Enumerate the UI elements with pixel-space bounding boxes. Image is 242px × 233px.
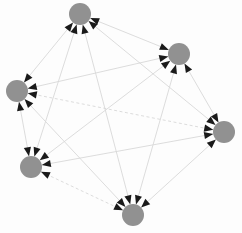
edge-arrowhead-icon	[41, 172, 51, 179]
edge-arrowhead-icon	[124, 195, 131, 205]
graph-edge	[90, 18, 169, 50]
graph-edge	[89, 21, 216, 125]
edge-arrowhead-icon	[204, 125, 214, 132]
node-layer	[6, 3, 235, 226]
edge-arrowhead-icon	[24, 147, 31, 157]
edge-arrowhead-icon	[159, 43, 169, 50]
graph-node[interactable]	[6, 80, 28, 102]
edge-arrowhead-icon	[40, 152, 49, 160]
edge-arrowhead-icon	[65, 23, 73, 32]
edge-arrowhead-icon	[42, 160, 51, 167]
arrowhead-layer	[17, 18, 218, 210]
edge-layer	[19, 18, 219, 210]
graph-node[interactable]	[122, 204, 144, 226]
edge-arrowhead-icon	[135, 195, 142, 205]
graph-node[interactable]	[168, 43, 190, 65]
edge-arrowhead-icon	[28, 83, 38, 90]
graph-node[interactable]	[69, 3, 91, 25]
edge-arrowhead-icon	[17, 102, 24, 112]
edge-arrowhead-icon	[34, 147, 41, 157]
graph-node[interactable]	[20, 156, 42, 178]
edge-arrowhead-icon	[159, 55, 169, 62]
graph-node[interactable]	[213, 121, 235, 143]
graph-edge	[83, 25, 130, 205]
graph-edge	[141, 139, 216, 207]
edge-arrowhead-icon	[184, 64, 192, 74]
graph-canvas	[0, 0, 242, 233]
edge-arrowhead-icon	[204, 132, 213, 139]
edge-arrowhead-icon	[170, 65, 177, 75]
edge-arrowhead-icon	[28, 91, 38, 98]
graph-edge	[24, 23, 73, 83]
edge-arrowhead-icon	[24, 73, 32, 82]
edge-arrowhead-icon	[82, 25, 89, 35]
graph-edge	[136, 65, 176, 205]
graph-figure	[0, 0, 242, 233]
edge-arrowhead-icon	[161, 61, 170, 69]
